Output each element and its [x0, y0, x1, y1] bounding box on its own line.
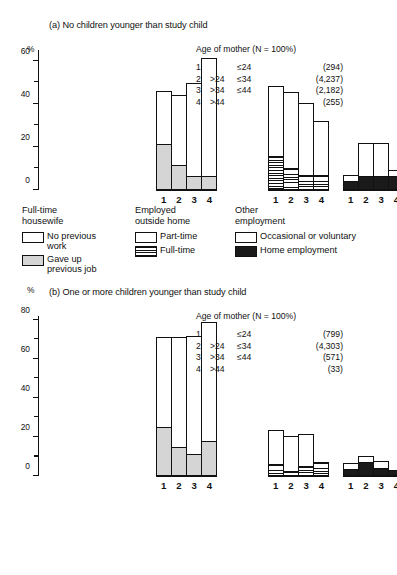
group-baseline: [156, 476, 217, 477]
y-axis: [38, 50, 39, 190]
x-axis-category-labels: 1234: [343, 480, 397, 491]
y-axis-tick: [34, 377, 39, 378]
bar-group: [343, 143, 397, 190]
bar-segment: [268, 464, 284, 476]
bar: [358, 143, 374, 190]
bar-group: [343, 456, 397, 476]
bar-segment: [343, 469, 359, 476]
y-axis-tick-label: 60: [8, 343, 30, 353]
bar-segment: [186, 176, 202, 190]
age-row-index: 1: [196, 329, 210, 341]
y-axis-tick-label: 40: [8, 382, 30, 392]
age-row-index: 3: [196, 85, 210, 97]
legend-item: Occasional or voluntary: [235, 231, 397, 243]
bar: [343, 463, 359, 476]
legend-item: Home employment: [235, 245, 397, 257]
y-axis-tick-label: 40: [8, 88, 30, 98]
x-axis-category-labels: 1234: [268, 480, 329, 491]
bar: [298, 434, 314, 476]
age-row-lower-bound: [210, 329, 237, 341]
bar: [373, 143, 389, 190]
bar-segment: [171, 447, 187, 476]
age-legend-row: 4>44(255): [196, 97, 343, 109]
bar-segment: [283, 471, 299, 476]
y-axis-tick: [34, 167, 39, 168]
legend-swatch-white: [235, 232, 257, 243]
age-row-index: 3: [196, 352, 210, 364]
x-axis-category-label: 2: [283, 480, 298, 491]
legend-column: Other employmentOccasional or voluntaryH…: [235, 205, 397, 260]
age-row-upper-bound: ≤34: [237, 341, 297, 353]
bar-segment: [373, 176, 389, 190]
legend-item-label: Full-time: [160, 245, 195, 255]
group-baseline: [268, 190, 329, 191]
legend-item-label: Part-time: [160, 231, 197, 241]
age-row-lower-bound: [210, 62, 237, 74]
x-axis-category-label: 3: [299, 194, 314, 205]
chart-a-title: (a) No children younger than study child: [49, 20, 207, 30]
x-axis-category-label: 4: [202, 480, 217, 491]
age-row-count: (294): [297, 62, 343, 74]
x-axis-category-label: 1: [343, 194, 358, 205]
y-axis-tick: [34, 416, 39, 417]
age-legend-row: 1≤24(294): [196, 62, 343, 74]
bar: [268, 430, 284, 476]
chart-b-age-legend: Age of mother (N = 100%) 1≤24(799)2>24≤3…: [196, 311, 343, 375]
y-axis-tick: [33, 475, 39, 476]
bar-segment: [171, 165, 187, 190]
bar-segment: [298, 175, 314, 190]
bar-segment: [313, 462, 329, 476]
bar: [313, 462, 329, 476]
age-legend-rows: 1≤24(294)2>24≤34(4,237)3>34≤44(2,182)4>4…: [196, 62, 343, 108]
age-row-count: (33): [297, 364, 343, 376]
age-row-count: (4,237): [297, 74, 343, 86]
x-axis-category-labels: 1234: [268, 194, 329, 205]
age-row-count: (799): [297, 329, 343, 341]
age-row-index: 4: [196, 364, 210, 376]
bar: [373, 461, 389, 476]
legend-column-heading: Other employment: [235, 205, 397, 228]
bar-segment: [343, 181, 359, 190]
age-row-count: (2,182): [297, 85, 343, 97]
y-axis-tick: [34, 81, 39, 82]
x-axis-category-label: 4: [389, 480, 397, 491]
x-axis-category-label: 2: [171, 194, 186, 205]
bar-segment: [313, 175, 329, 190]
y-axis-tick: [33, 397, 39, 398]
bar: [343, 175, 359, 190]
y-axis-tick: [33, 358, 39, 359]
y-axis-tick: [33, 189, 39, 190]
group-baseline: [343, 190, 397, 191]
age-row-upper-bound: [237, 97, 297, 109]
x-axis-category-label: 4: [314, 194, 329, 205]
bar-segment: [298, 466, 314, 476]
age-row-count: (255): [297, 97, 343, 109]
bar: [358, 456, 374, 476]
bar-segment: [388, 176, 397, 190]
age-legend-heading: Age of mother (N = 100%): [196, 44, 343, 54]
bar: [388, 470, 397, 476]
panel-chart-a: (a) No children younger than study child…: [0, 0, 397, 288]
x-axis-category-label: 1: [156, 480, 171, 491]
legend-swatch-white: [22, 232, 44, 243]
y-axis-tick-label: 80: [8, 304, 30, 314]
age-row-lower-bound: >34: [210, 352, 237, 364]
y-axis-tick-label: 0: [8, 461, 30, 471]
bar-segment: [358, 462, 374, 476]
legend-column: Employed outside homePart-timeFull-time: [135, 205, 245, 260]
x-axis-category-label: 3: [374, 480, 389, 491]
legend-item-label: Occasional or voluntary: [260, 231, 356, 241]
chart-b-title: (b) One or more children younger than st…: [49, 287, 246, 297]
y-axis-tick-label: 20: [8, 131, 30, 141]
bar-segment: [201, 176, 217, 190]
age-row-lower-bound: >34: [210, 85, 237, 97]
x-axis-category-label: 2: [358, 194, 373, 205]
group-baseline: [343, 476, 397, 477]
bar: [171, 337, 187, 476]
legend-column-heading: Employed outside home: [135, 205, 245, 228]
age-legend-rows: 1≤24(799)2>24≤34(4,303)3>34≤44(571)4>44(…: [196, 329, 343, 375]
panel-chart-b: (b) One or more children younger than st…: [0, 283, 397, 575]
y-axis-tick: [33, 146, 39, 147]
legend-item: No previous work: [22, 231, 140, 252]
y-axis-tick: [33, 103, 39, 104]
